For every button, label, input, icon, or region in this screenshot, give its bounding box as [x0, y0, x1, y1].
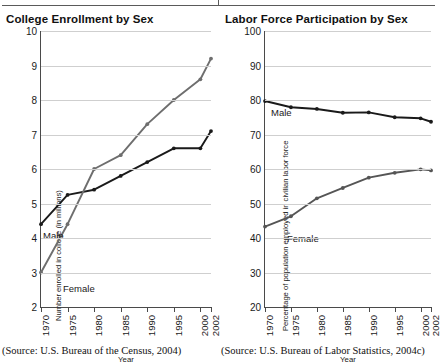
series-line-female	[265, 169, 431, 226]
data-point	[39, 222, 43, 226]
y-axis-tick-label: 80	[250, 95, 261, 106]
y-axis-tick-label: 8	[31, 95, 37, 106]
x-axis-tick-mark	[121, 307, 122, 312]
x-axis-tick-mark	[174, 307, 175, 312]
y-axis-tick-label: 5	[31, 198, 37, 209]
y-axis-tick-label: 30	[250, 267, 261, 278]
chart-panel-labor-force: Labor Force Participation by Sex Percent…	[219, 0, 437, 363]
x-axis-title: Year	[265, 355, 431, 363]
y-axis-tick-label: 6	[31, 164, 37, 175]
gridline	[41, 169, 211, 170]
x-axis-tick-mark	[41, 307, 42, 312]
data-point	[145, 122, 149, 126]
data-point	[66, 193, 70, 197]
source-note: (Source: U.S. Bureau of the Census, 2004…	[0, 345, 220, 356]
chart-title: Labor Force Participation by Sex	[225, 13, 408, 25]
gridline	[41, 135, 211, 136]
gridline	[265, 238, 431, 239]
x-axis-tick-label: 1970	[40, 315, 51, 336]
x-axis-tick-label: 1975	[289, 315, 300, 336]
x-axis-tick-mark	[395, 307, 396, 312]
y-axis-tick-label: 50	[250, 198, 261, 209]
data-point	[419, 116, 423, 120]
x-axis-tick-label: 1975	[66, 315, 77, 336]
gridline	[265, 31, 431, 32]
y-axis-tick-label: 2	[31, 302, 37, 313]
data-point	[315, 196, 319, 200]
y-axis-tick-label: 40	[250, 233, 261, 244]
x-axis-title: Year	[41, 355, 211, 363]
x-axis-tick-mark	[317, 307, 318, 312]
x-axis-tick-mark	[343, 307, 344, 312]
data-point	[367, 176, 371, 180]
gridline	[41, 273, 211, 274]
chart-panel-college-enrollment: College Enrollment by Sex Number enrolle…	[0, 0, 218, 363]
data-point	[341, 186, 345, 190]
data-point	[172, 146, 176, 150]
y-axis-tick-label: 90	[250, 60, 261, 71]
y-axis-tick-label: 4	[31, 233, 37, 244]
data-point	[289, 214, 293, 218]
gridline	[41, 204, 211, 205]
plot-area: Percentage of population employed in civ…	[264, 31, 431, 308]
gridline	[265, 273, 431, 274]
gridline	[41, 31, 211, 32]
data-point	[66, 222, 70, 226]
y-axis-tick-label: 20	[250, 302, 261, 313]
data-point	[119, 174, 123, 178]
data-point	[119, 153, 123, 157]
y-axis-tick-label: 70	[250, 129, 261, 140]
y-axis-tick-label: 100	[244, 26, 261, 37]
x-axis-tick-label: 1980	[315, 315, 326, 336]
data-point	[209, 57, 213, 61]
data-point	[92, 188, 96, 192]
x-axis-tick-label: 1980	[93, 315, 104, 336]
x-axis-tick-label: 1990	[367, 315, 378, 336]
x-axis-tick-mark	[200, 307, 201, 312]
x-axis-tick-label: 1985	[341, 315, 352, 336]
y-axis-tick-label: 10	[26, 26, 37, 37]
data-point	[198, 146, 202, 150]
x-axis-tick-mark	[147, 307, 148, 312]
x-axis-tick-label: 1995	[172, 315, 183, 336]
gridline	[265, 169, 431, 170]
data-point	[393, 115, 397, 119]
x-axis-tick-mark	[265, 307, 266, 312]
x-axis-tick-mark	[94, 307, 95, 312]
x-axis-tick-label: 2000	[419, 315, 430, 336]
data-point	[393, 171, 397, 175]
x-axis-tick-mark	[431, 307, 432, 312]
x-axis-tick-mark	[291, 307, 292, 312]
x-axis-tick-label: 1995	[393, 315, 404, 336]
gridline	[265, 204, 431, 205]
data-point	[209, 129, 213, 133]
data-point	[367, 111, 371, 115]
y-axis-tick-label: 9	[31, 60, 37, 71]
chart-title: College Enrollment by Sex	[6, 13, 154, 25]
series-label-male: Male	[43, 230, 64, 241]
x-axis-tick-mark	[68, 307, 69, 312]
x-axis-tick-label: 2002	[430, 315, 441, 336]
data-point	[341, 111, 345, 115]
x-axis-tick-mark	[421, 307, 422, 312]
data-point	[429, 120, 433, 124]
data-point	[315, 107, 319, 111]
plot-area: Number enrolled in college (in millions)…	[40, 31, 211, 308]
x-axis-tick-mark	[211, 307, 212, 312]
x-axis-tick-label: 1985	[119, 315, 130, 336]
y-axis-tick-label: 3	[31, 267, 37, 278]
gridline	[265, 66, 431, 67]
gridline	[265, 135, 431, 136]
data-point	[263, 225, 267, 229]
x-axis-tick-label: 2000	[199, 315, 210, 336]
y-axis-tick-label: 7	[31, 129, 37, 140]
data-point	[145, 160, 149, 164]
gridline	[41, 238, 211, 239]
y-axis-tick-label: 60	[250, 164, 261, 175]
series-line-female	[41, 59, 211, 273]
gridline	[41, 66, 211, 67]
x-axis-tick-label: 1970	[264, 315, 275, 336]
series-label-female: Female	[63, 283, 95, 294]
source-note: (Source: U.S. Bureau of Labor Statistics…	[219, 345, 439, 356]
